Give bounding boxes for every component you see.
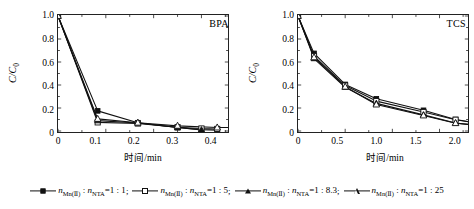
- ytick-label-bpa-5: 0.2: [30, 105, 54, 115]
- ytick-label-tcs-1: 1.0: [270, 10, 294, 20]
- xtick-label-tcs-2: 0.5: [331, 136, 343, 146]
- xtick-label-tcs-1: 0: [296, 136, 301, 146]
- ytick-label-bpa-1: 1.0: [30, 10, 54, 20]
- xtick-label-tcs-4: 1.5: [410, 136, 422, 146]
- legend-item[interactable]: nMn(Ⅱ) : nNTA=1 : 5;: [132, 185, 232, 198]
- ytick-label-bpa-6: 0: [30, 128, 54, 138]
- panel-tag-bpa: BPA: [209, 18, 229, 29]
- xtick-label-tcs-5: 2.0: [449, 136, 461, 146]
- legend-item[interactable]: nMn(Ⅱ) : nNTA=1 : 25: [344, 185, 444, 198]
- ytick-label-tcs-4: 0.4: [270, 81, 294, 91]
- legend-item-label: nMn(Ⅱ) : nNTA=1 : 25: [372, 185, 444, 198]
- plot-area-tcs: [298, 15, 468, 132]
- xtick-label-bpa-1: 0: [56, 136, 61, 146]
- plot-frame-bpa: [57, 14, 229, 133]
- yaxis-title-bpa: C/C0: [7, 63, 21, 83]
- ytick-label-tcs-5: 0.2: [270, 105, 294, 115]
- legend-marker-open-triangle-icon: [344, 186, 370, 196]
- series-canvas-bpa: [58, 15, 228, 132]
- ytick-label-tcs-2: 0.8: [270, 34, 294, 44]
- xtick-label-tcs-3: 1.0: [370, 136, 382, 146]
- legend-item-label: nMn(Ⅱ) : nNTA=1 : 5: [160, 185, 228, 198]
- yaxis-title-tcs: C/C0: [247, 63, 261, 83]
- legend-item-label: nMn(Ⅱ) : nNTA=1 : 1: [58, 185, 126, 198]
- ytick-label-bpa-3: 0.6: [30, 58, 54, 68]
- chart-panel-bpa: BPA 1.0 0.8 0.6 0.4 0.2 0 0 0.1 0.2 0.3 …: [0, 0, 237, 175]
- legend-separator: ;: [228, 186, 231, 196]
- xaxis-title-tcs: 时间/min: [366, 150, 403, 164]
- xaxis-title-bpa: 时间/min: [124, 150, 161, 164]
- legend-marker-filled-square-icon: [30, 186, 56, 196]
- chart-legend: nMn(Ⅱ) : nNTA=1 : 1;nMn(Ⅱ) : nNTA=1 : 5;…: [0, 180, 474, 202]
- legend-marker-filled-triangle-icon: [235, 186, 261, 196]
- legend-separator: ;: [337, 186, 340, 196]
- legend-item-label: nMn(Ⅱ) : nNTA=1 : 8.3: [263, 185, 337, 198]
- legend-item[interactable]: nMn(Ⅱ) : nNTA=1 : 1;: [30, 185, 130, 198]
- plot-area-bpa: [58, 15, 228, 132]
- legend-separator: ;: [126, 186, 129, 196]
- legend-item[interactable]: nMn(Ⅱ) : nNTA=1 : 8.3;: [235, 185, 342, 198]
- xtick-label-bpa-2: 0.1: [89, 136, 101, 146]
- xtick-label-bpa-4: 0.3: [166, 136, 178, 146]
- xtick-label-bpa-5: 0.4: [205, 136, 217, 146]
- legend-marker-open-square-icon: [132, 186, 158, 196]
- ytick-label-tcs-6: 0: [270, 128, 294, 138]
- series-canvas-tcs: [298, 15, 468, 132]
- ytick-label-bpa-2: 0.8: [30, 34, 54, 44]
- plot-frame-tcs: [297, 14, 469, 133]
- ytick-label-bpa-4: 0.4: [30, 81, 54, 91]
- chart-panel-tcs: TCS 1.0 0.8 0.6 0.4 0.2 0 0 0.5 1.0 1.5 …: [237, 0, 474, 175]
- panel-tag-tcs: TCS: [446, 18, 466, 29]
- ytick-label-tcs-3: 0.6: [270, 58, 294, 68]
- figure-container: BPA 1.0 0.8 0.6 0.4 0.2 0 0 0.1 0.2 0.3 …: [0, 0, 474, 209]
- xtick-label-bpa-3: 0.2: [128, 136, 140, 146]
